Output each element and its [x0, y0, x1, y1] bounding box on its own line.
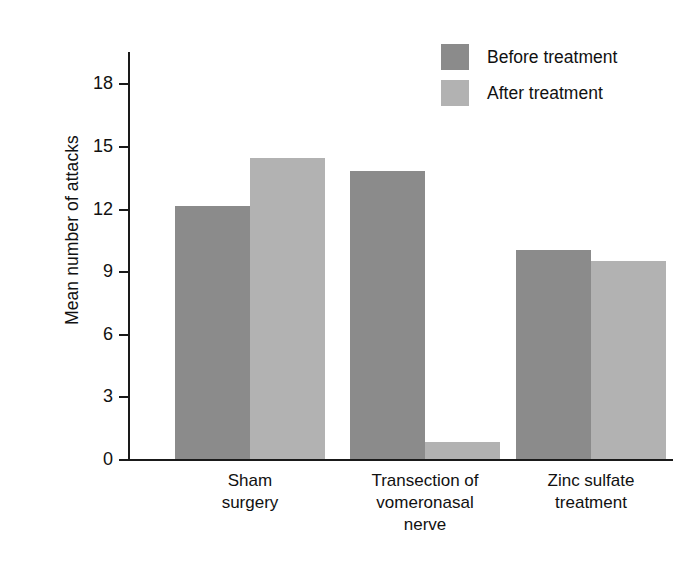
plot-area: 0369121518 — [128, 52, 673, 461]
bar-chart-figure: Mean number of attacks 0369121518 Sham s… — [0, 0, 697, 563]
legend-swatch-after — [441, 80, 469, 106]
chart-legend: Before treatmentAfter treatment — [441, 39, 691, 111]
legend-item: After treatment — [441, 75, 691, 111]
y-tick-mark — [119, 146, 128, 148]
y-tick-label: 0 — [103, 450, 113, 468]
y-tick-mark — [119, 459, 128, 461]
x-axis-category-labels: Sham surgeryTransection of vomeronasal n… — [128, 470, 673, 560]
y-tick-mark — [119, 396, 128, 398]
bar-after — [250, 158, 325, 459]
bars-layer — [128, 52, 673, 459]
bar-before — [350, 171, 425, 459]
y-tick-label: 18 — [93, 74, 113, 92]
y-tick-label: 15 — [93, 137, 113, 155]
y-tick-mark — [119, 271, 128, 273]
y-tick-label: 3 — [103, 387, 113, 405]
legend-swatch-before — [441, 44, 469, 70]
y-tick-mark — [119, 83, 128, 85]
bar-before — [516, 250, 591, 459]
x-axis-label: Transection of vomeronasal nerve — [350, 470, 500, 535]
bar-group — [516, 52, 666, 459]
bar-group — [350, 52, 500, 459]
x-axis-label: Sham surgery — [175, 470, 325, 514]
x-axis-line — [128, 459, 673, 461]
bar-after — [591, 261, 666, 459]
legend-item: Before treatment — [441, 39, 691, 75]
y-axis-title: Mean number of attacks — [52, 0, 92, 460]
bar-before — [175, 206, 250, 459]
y-tick-label: 9 — [103, 262, 113, 280]
x-axis-label: Zinc sulfate treatment — [516, 470, 666, 514]
y-tick-label: 6 — [103, 325, 113, 343]
bar-after — [425, 442, 500, 459]
y-tick-mark — [119, 334, 128, 336]
legend-label: Before treatment — [487, 47, 617, 68]
bar-group — [175, 52, 325, 459]
y-tick-mark — [119, 209, 128, 211]
legend-label: After treatment — [487, 83, 603, 104]
y-tick-label: 12 — [93, 200, 113, 218]
